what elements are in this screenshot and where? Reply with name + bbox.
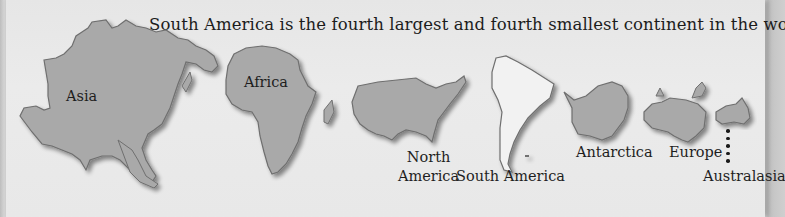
figure-frame: South America is the fourth largest and … [0, 0, 785, 217]
figure-panel: South America is the fourth largest and … [6, 0, 765, 217]
continents-map [6, 0, 765, 217]
australasia-shape [716, 98, 750, 124]
label-africa: Africa [244, 73, 288, 92]
label-antarctica: Antarctica [576, 143, 653, 162]
label-north-america-line2: America [398, 167, 459, 186]
label-australasia: Australasia [703, 167, 785, 186]
europe-shape [644, 82, 706, 142]
australasia-leader-dots [726, 129, 730, 167]
africa-shape [226, 46, 334, 174]
leader-dot [726, 159, 730, 163]
leader-dot [726, 129, 730, 133]
antarctica-shape [564, 82, 628, 140]
leader-dot [726, 137, 730, 141]
leader-dot [726, 152, 730, 156]
leader-dot [726, 144, 730, 148]
label-asia: Asia [66, 87, 97, 106]
label-south-america: South America [456, 167, 565, 186]
north-america-shape [352, 76, 466, 142]
asia-shape [20, 20, 218, 188]
south-america-shape [492, 56, 554, 172]
label-north-america-line1: North [398, 148, 459, 167]
label-europe: Europe [669, 143, 722, 162]
label-north-america: North America [398, 148, 459, 186]
